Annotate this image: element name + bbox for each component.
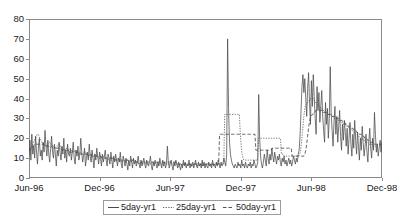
x-axis-tick-label: Dec-98 bbox=[367, 182, 397, 193]
x-axis-tick-mark bbox=[241, 178, 242, 181]
legend-item-label: 25day-yr1 bbox=[176, 203, 216, 212]
x-axis-tick-label: Dec-96 bbox=[84, 182, 115, 193]
y-axis-tick-label: 50 bbox=[13, 74, 24, 84]
legend-item[interactable]: 5day-yr1 bbox=[108, 203, 156, 212]
y-axis-tick-label: 10 bbox=[13, 153, 24, 163]
x-axis-tick-mark bbox=[311, 178, 312, 181]
x-axis-tick-label: Jun-97 bbox=[156, 182, 185, 193]
legend-item-label: 5day-yr1 bbox=[121, 203, 156, 212]
y-axis-label-group: 80706050403020100 bbox=[0, 19, 24, 178]
x-axis-label-group: Jun-96Dec-96Jun-97Dec-97Jun-98Dec-98 bbox=[0, 182, 394, 196]
x-axis-tick-label: Jun-96 bbox=[14, 182, 43, 193]
x-axis-tick-mark bbox=[100, 178, 101, 181]
y-axis-tick-label: 60 bbox=[13, 54, 24, 64]
x-axis-tick-mark bbox=[382, 178, 383, 181]
line-dashed-icon bbox=[223, 204, 234, 211]
y-axis-tick-label: 70 bbox=[13, 34, 24, 44]
plot-series-canvas bbox=[29, 19, 382, 178]
legend-item[interactable]: 50day-yr1 bbox=[223, 203, 276, 212]
series-group bbox=[29, 39, 382, 170]
y-axis-tick-label: 80 bbox=[13, 14, 24, 24]
y-axis-tick-label: 40 bbox=[13, 94, 24, 104]
chart-legend: 5day-yr125day-yr150day-yr1 bbox=[103, 200, 281, 215]
legend-item[interactable]: 25day-yr1 bbox=[163, 203, 216, 212]
line-dotted-icon bbox=[163, 204, 174, 211]
x-axis-tick-mark bbox=[170, 178, 171, 181]
legend-item-label: 50day-yr1 bbox=[236, 203, 276, 212]
x-axis-tick-label: Dec-97 bbox=[225, 182, 256, 193]
y-axis-tick-label: 30 bbox=[13, 113, 24, 123]
series-line-5day-yr1 bbox=[29, 39, 382, 170]
x-axis-tick-label: Jun-98 bbox=[297, 182, 326, 193]
y-axis-tick-label: 20 bbox=[13, 133, 24, 143]
line-solid-icon bbox=[108, 204, 119, 211]
